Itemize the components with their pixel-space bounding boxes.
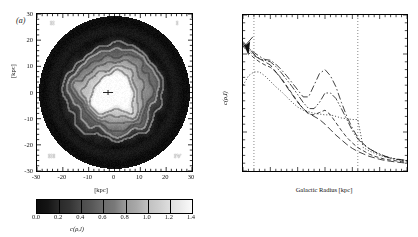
panel-a-x-tick: 0 [112,173,115,180]
quadrant-label-III: III [48,152,55,160]
panel-a-tag: (a) [16,16,25,25]
colorbar-tick: 1.4 [187,213,195,220]
colorbar-tick: 0.0 [32,213,40,220]
panel-a-y-tick: 10 [27,62,34,69]
panel-b-x-axis-label: Galactic Radius [kpc] [296,186,353,193]
colorbar-tick: 0.4 [76,213,84,220]
quadrant-label-I: I [176,19,178,27]
panel-b: (b) 051015202530 0.00.51.01.52.0 c(ρ,l) … [209,0,418,237]
colorbar-divider [126,200,127,213]
curve-ii [243,42,407,161]
panel-a-x-axis-label: [kpc] [94,186,108,193]
colorbar-divider [103,200,104,213]
curve-strong-et-al- [243,72,407,161]
panel-a: (a) II I III IV -30-20-100102030 3020100… [0,0,209,237]
colorbar-tick: 1.0 [143,213,151,220]
panel-a-y-tick: -20 [24,140,33,147]
colorbar-tick: 0.6 [98,213,106,220]
panel-a-y-tick: -10 [24,114,33,121]
panel-a-x-tick: 30 [188,173,195,180]
panel-a-x-tick: -30 [32,173,41,180]
galactic-map-plot [36,13,193,172]
colorbar-tick: 0.8 [121,213,129,220]
colorbar: 0.00.20.40.60.81.01.21.4 [36,199,191,212]
panel-a-x-tick: -10 [83,173,92,180]
colorbar-gradient [36,199,193,214]
quadrant-label-IV: IV [174,152,181,160]
colorbar-divider [81,200,82,213]
galactic-map-canvas [37,14,192,171]
colorbar-divider [59,200,60,213]
panel-a-y-tick: -30 [24,167,33,174]
panel-a-y-tick: 0 [30,88,33,95]
colorbar-tick: 0.2 [54,213,62,220]
colorbar-divider [170,200,171,213]
quadrant-label-II: II [50,19,55,27]
radial-profile-svg [243,15,407,171]
curve-iii [243,43,407,160]
colorbar-tick-labels: 0.00.20.40.60.81.01.21.4 [36,213,191,223]
curve-i [243,45,407,164]
panel-a-x-tick: 20 [162,173,169,180]
panel-a-y-tick: 20 [27,36,34,43]
panel-a-y-axis-label: [kpc] [9,64,16,78]
colorbar-divider [148,200,149,213]
panel-a-y-tick: 30 [27,10,34,17]
panel-a-x-tick: -20 [57,173,66,180]
radial-profile-plot [242,14,408,172]
colorbar-title: c(ρ,l) [70,225,84,232]
colorbar-tick: 1.2 [165,213,173,220]
figure-root: (a) II I III IV -30-20-100102030 3020100… [0,0,418,237]
panel-b-y-axis-label: c(ρ,l) [221,91,228,105]
panel-a-x-tick: 10 [136,173,143,180]
colorbar-divider [192,200,193,213]
